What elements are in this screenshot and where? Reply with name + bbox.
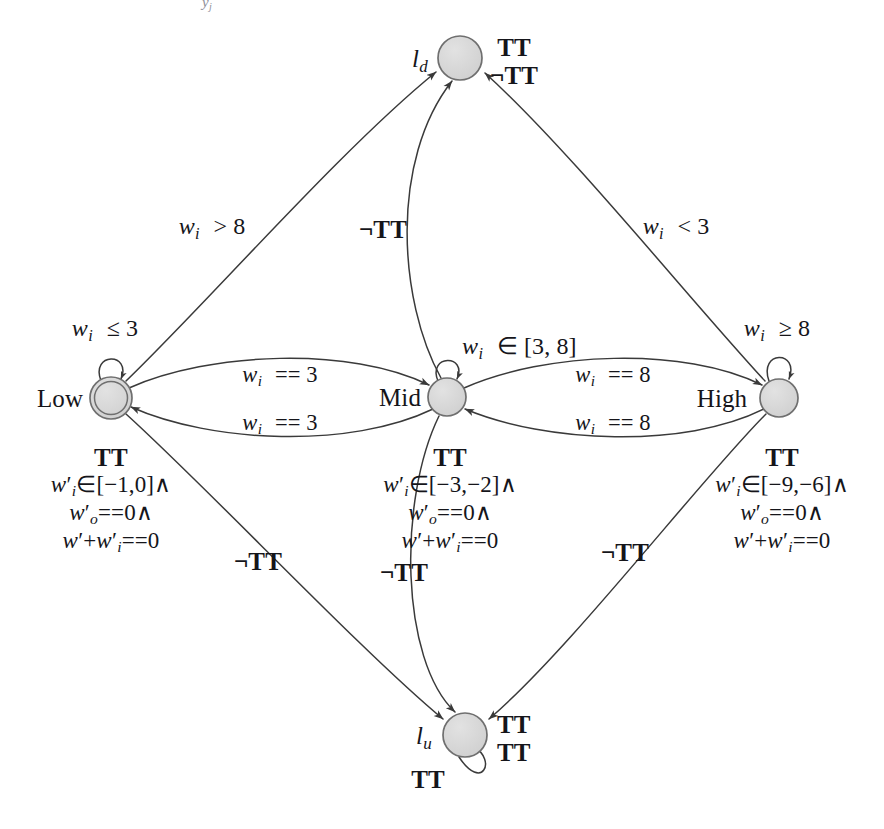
node-invariant-mid: TT w′i∈[−3,−2]∧ w′o==0∧ w′+w′i==0 — [383, 444, 516, 556]
edge-label-high-to-lu: ¬TT — [601, 539, 649, 567]
node-label-low: Low — [37, 385, 83, 413]
node-label-ld: ld — [412, 45, 428, 76]
edge-label-low-to-lu: ¬TT — [234, 548, 282, 576]
node-low[interactable] — [90, 377, 132, 419]
node-invariant-low: TT w′i∈[−1,0]∧ w′o==0∧ w′+w′i==0 — [51, 444, 171, 556]
self-loop-label-lu: TT — [411, 766, 445, 794]
self-loop-guard-mid: wi ∈ [3, 8] — [462, 333, 577, 363]
node-label-high: High — [697, 385, 747, 413]
edge-label-mid-to-lu: ¬TT — [380, 559, 428, 587]
node-mid[interactable] — [428, 378, 466, 416]
edge-label-mid-to-low: wi == 3 — [242, 410, 317, 437]
diagram-graph — [0, 0, 884, 829]
diagram-canvas: yj ld TT ¬TT Low wi ≤ 3 TT w′i∈[−1,0]∧ w… — [0, 0, 884, 829]
edge-high-self-loop — [767, 357, 791, 381]
edge-label-mid-to-ld: ¬TT — [359, 216, 407, 244]
node-annotation-lu: TT TT — [497, 711, 531, 767]
node-invariant-high: TT w′i∈[−9,−6]∧ w′o==0∧ w′+w′i==0 — [715, 444, 848, 556]
edge-label-low-to-ld: wi > 8 — [179, 213, 246, 243]
self-loop-guard-high: wi ≥ 8 — [744, 315, 810, 345]
edge-mid-to-ld — [407, 81, 452, 378]
node-annotation-ld: TT ¬TT — [490, 34, 538, 90]
node-ld[interactable] — [438, 36, 482, 80]
edge-label-low-to-mid: wi == 3 — [242, 362, 317, 389]
node-lu[interactable] — [443, 713, 487, 757]
node-high[interactable] — [760, 379, 798, 417]
node-label-lu: lu — [416, 722, 432, 753]
edge-label-high-to-ld: wi < 3 — [643, 213, 710, 243]
page-top-cropped-fragment: yj — [202, 0, 212, 12]
self-loop-guard-low: wi ≤ 3 — [72, 315, 138, 345]
edge-label-mid-to-high: wi == 8 — [575, 362, 650, 389]
node-label-mid: Mid — [379, 384, 421, 412]
edge-label-high-to-mid: wi == 8 — [575, 410, 650, 437]
